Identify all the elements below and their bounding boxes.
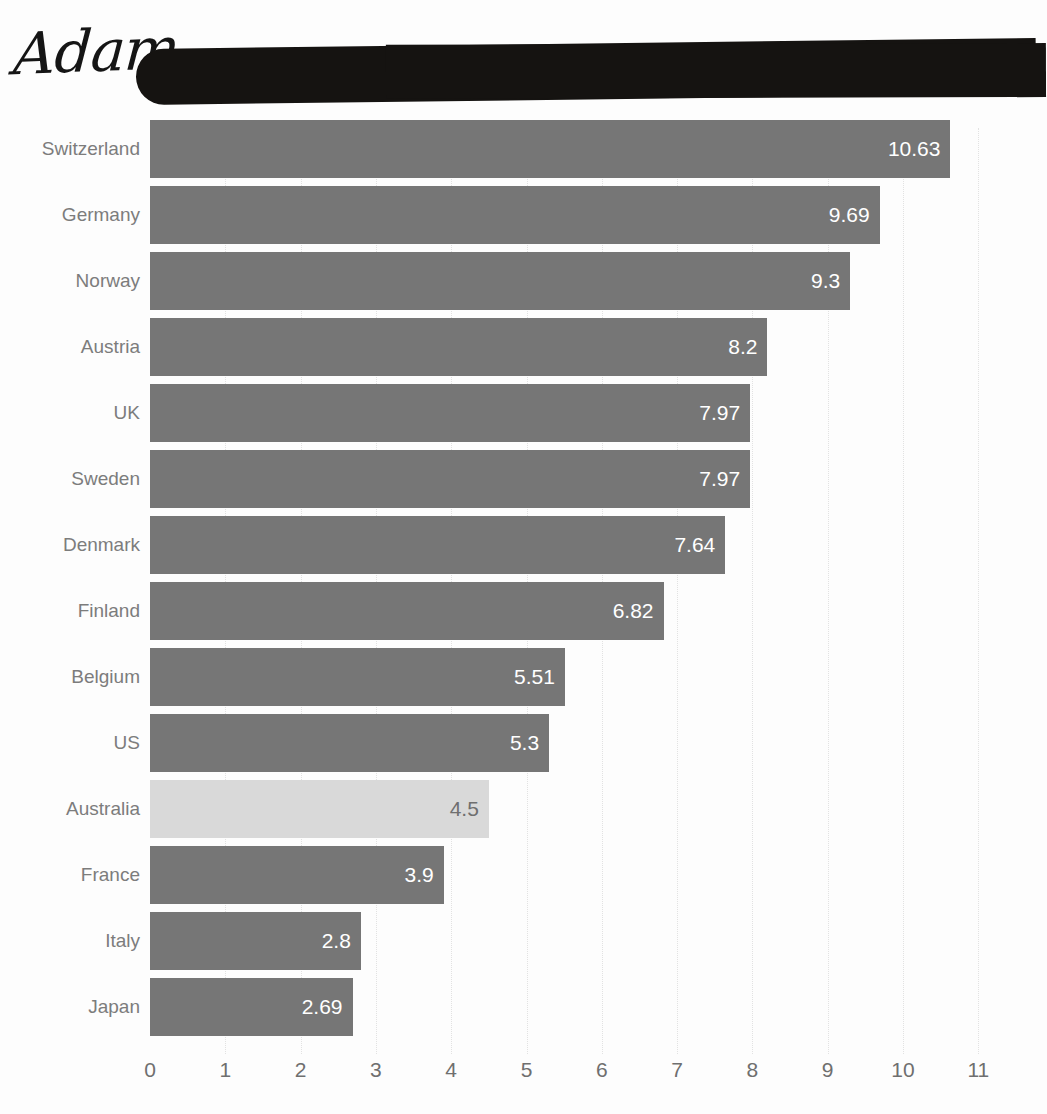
category-label-japan: Japan xyxy=(0,978,140,1036)
category-label-uk: UK xyxy=(0,384,140,442)
bar-sweden[interactable]: 7.97 xyxy=(150,450,750,508)
bar-row: US5.3 xyxy=(0,714,1034,772)
bar-japan[interactable]: 2.69 xyxy=(150,978,353,1036)
x-tick-5: 5 xyxy=(507,1058,547,1082)
bar-value-label: 7.97 xyxy=(699,384,740,442)
x-tick-10: 10 xyxy=(883,1058,923,1082)
x-tick-11: 11 xyxy=(958,1058,998,1082)
x-tick-7: 7 xyxy=(657,1058,697,1082)
bar-row: Denmark7.64 xyxy=(0,516,1034,574)
bar-row: Germany9.69 xyxy=(0,186,1034,244)
bar-value-label: 7.64 xyxy=(674,516,715,574)
bar-row: Japan2.69 xyxy=(0,978,1034,1036)
bar-value-label: 6.82 xyxy=(613,582,654,640)
redaction-bar xyxy=(136,38,1037,105)
bar-value-label: 8.2 xyxy=(728,318,757,376)
bar-row: Switzerland10.63 xyxy=(0,120,1034,178)
category-label-austria: Austria xyxy=(0,318,140,376)
category-label-australia: Australia xyxy=(0,780,140,838)
annotation-band: Adam xyxy=(0,0,1034,120)
bar-row: Norway9.3 xyxy=(0,252,1034,310)
bar-value-label: 5.51 xyxy=(514,648,555,706)
x-tick-4: 4 xyxy=(431,1058,471,1082)
bar-value-label: 9.3 xyxy=(811,252,840,310)
bar-rows: Switzerland10.63Germany9.69Norway9.3Aust… xyxy=(0,120,1034,1046)
x-tick-6: 6 xyxy=(582,1058,622,1082)
bar-austria[interactable]: 8.2 xyxy=(150,318,767,376)
bar-uk[interactable]: 7.97 xyxy=(150,384,750,442)
bar-value-label: 3.9 xyxy=(404,846,433,904)
x-tick-8: 8 xyxy=(732,1058,772,1082)
bar-value-label: 7.97 xyxy=(699,450,740,508)
bar-value-label: 2.69 xyxy=(302,978,343,1036)
bar-italy[interactable]: 2.8 xyxy=(150,912,361,970)
category-label-germany: Germany xyxy=(0,186,140,244)
bar-chart: Switzerland10.63Germany9.69Norway9.3Aust… xyxy=(0,120,1034,1114)
category-label-belgium: Belgium xyxy=(0,648,140,706)
bar-row: Belgium5.51 xyxy=(0,648,1034,706)
bar-finland[interactable]: 6.82 xyxy=(150,582,664,640)
bar-belgium[interactable]: 5.51 xyxy=(150,648,565,706)
category-label-italy: Italy xyxy=(0,912,140,970)
bar-row: UK7.97 xyxy=(0,384,1034,442)
x-tick-2: 2 xyxy=(281,1058,321,1082)
bar-denmark[interactable]: 7.64 xyxy=(150,516,725,574)
bar-us[interactable]: 5.3 xyxy=(150,714,549,772)
category-label-switzerland: Switzerland xyxy=(0,120,140,178)
x-tick-9: 9 xyxy=(808,1058,848,1082)
bar-row: Sweden7.97 xyxy=(0,450,1034,508)
category-label-denmark: Denmark xyxy=(0,516,140,574)
bar-value-label: 5.3 xyxy=(510,714,539,772)
bar-row: Austria8.2 xyxy=(0,318,1034,376)
category-label-norway: Norway xyxy=(0,252,140,310)
bar-row: Australia4.5 xyxy=(0,780,1034,838)
bar-row: Italy2.8 xyxy=(0,912,1034,970)
bar-australia[interactable]: 4.5 xyxy=(150,780,489,838)
category-label-france: France xyxy=(0,846,140,904)
bar-germany[interactable]: 9.69 xyxy=(150,186,880,244)
bar-value-label: 4.5 xyxy=(450,780,479,838)
bar-value-label: 9.69 xyxy=(829,186,870,244)
x-tick-1: 1 xyxy=(205,1058,245,1082)
bar-value-label: 10.63 xyxy=(888,120,941,178)
category-label-finland: Finland xyxy=(0,582,140,640)
x-tick-3: 3 xyxy=(356,1058,396,1082)
x-tick-0: 0 xyxy=(130,1058,170,1082)
bar-row: France3.9 xyxy=(0,846,1034,904)
bar-norway[interactable]: 9.3 xyxy=(150,252,850,310)
x-axis: 01234567891011 xyxy=(0,1058,1034,1108)
bar-row: Finland6.82 xyxy=(0,582,1034,640)
category-label-us: US xyxy=(0,714,140,772)
bar-france[interactable]: 3.9 xyxy=(150,846,444,904)
category-label-sweden: Sweden xyxy=(0,450,140,508)
bar-switzerland[interactable]: 10.63 xyxy=(150,120,950,178)
bar-value-label: 2.8 xyxy=(322,912,351,970)
